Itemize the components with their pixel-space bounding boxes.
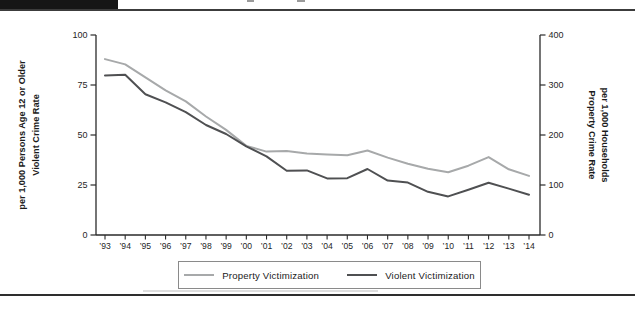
left-axis-tick-label: 25 <box>77 180 87 190</box>
year-label: ’10 <box>443 241 455 251</box>
left-axis-tick-label: 0 <box>82 230 87 240</box>
year-label: ’94 <box>119 241 131 251</box>
year-label: ’08 <box>402 241 414 251</box>
property-victimization-line <box>105 59 529 176</box>
right-axis-title-line1: Property Crime Rate <box>587 91 597 180</box>
year-label: ’03 <box>301 241 313 251</box>
year-label: ’09 <box>422 241 434 251</box>
chart-legend: Property Victimization Violent Victimiza… <box>178 261 481 289</box>
screenshot-root: Violent Crime Rate per 1,000 Persons Age… <box>0 0 635 309</box>
property-line-swatch <box>184 274 214 276</box>
left-axis-title-line1: Violent Crime Rate <box>31 94 41 176</box>
year-label: ’05 <box>342 241 354 251</box>
year-label: ’96 <box>160 241 172 251</box>
right-axis-tick-label: 100 <box>549 180 564 190</box>
right-axis-tick-label: 300 <box>549 80 564 90</box>
year-label: ’00 <box>241 241 253 251</box>
year-label: ’99 <box>220 241 232 251</box>
year-label: ’02 <box>281 241 293 251</box>
left-axis-tick-label: 75 <box>77 80 87 90</box>
year-label: ’11 <box>463 241 474 251</box>
violent-line-swatch <box>347 274 377 276</box>
year-label: ’12 <box>483 241 495 251</box>
year-label: ’13 <box>503 241 515 251</box>
legend-entry-property: Property Victimization <box>184 270 319 281</box>
year-label: ’04 <box>321 241 333 251</box>
right-axis-tick-label: 0 <box>549 230 554 240</box>
legend-label-property: Property Victimization <box>222 270 319 281</box>
year-label: ’06 <box>362 241 374 251</box>
left-axis-tick-label: 100 <box>72 30 87 40</box>
year-label: ’98 <box>200 241 212 251</box>
right-axis-title-line2: per 1,000 Households <box>600 88 610 183</box>
chart-plot-area: 02550751000100200300400’93’94’95’96’97’9… <box>72 30 563 251</box>
year-label: ’97 <box>180 241 192 251</box>
left-axis-tick-label: 50 <box>77 130 87 140</box>
year-label: ’14 <box>523 241 535 251</box>
left-axis-title-line2: per 1,000 Persons Age 12 or Older <box>17 60 27 210</box>
right-axis-tick-label: 400 <box>549 30 564 40</box>
year-label: ’93 <box>99 241 111 251</box>
year-label: ’07 <box>382 241 394 251</box>
legend-entry-violent: Violent Victimization <box>347 270 475 281</box>
year-label: ’01 <box>261 241 273 251</box>
legend-underline-smudge <box>143 290 378 292</box>
legend-label-violent: Violent Victimization <box>385 270 475 281</box>
year-label: ’95 <box>140 241 152 251</box>
right-axis-tick-label: 200 <box>549 130 564 140</box>
bottom-border-rule <box>0 294 635 296</box>
